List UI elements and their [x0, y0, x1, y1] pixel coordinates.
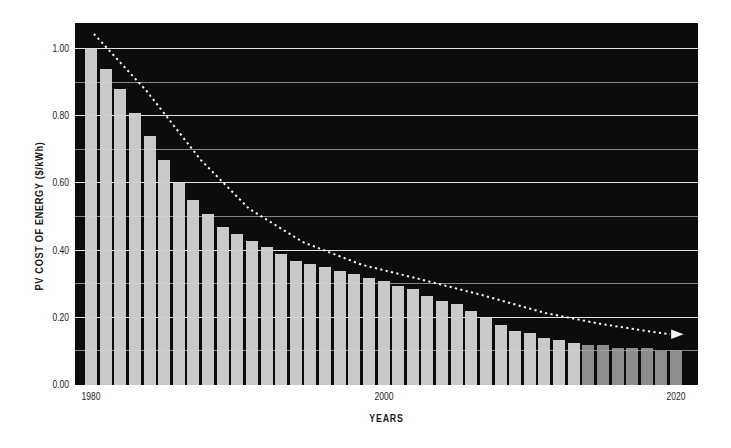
x-tick-label-2000: 2000	[365, 391, 402, 403]
y-tick-label-0.80: 0.80	[13, 110, 69, 122]
x-tick-label-2020: 2020	[657, 391, 694, 403]
x-tick-label-1980: 1980	[72, 391, 109, 403]
y-axis-title-text: PV COST OF ENERGY ($/kWh)	[34, 142, 45, 291]
y-tick-label-1.00: 1.00	[13, 43, 69, 55]
trend-line	[75, 23, 698, 385]
pv-cost-of-energy-chart: 1.000.800.600.400.200.00 198020002020 PV…	[0, 0, 731, 448]
arrowhead-icon	[671, 329, 684, 339]
y-tick-label-0.20: 0.20	[13, 312, 69, 324]
y-tick-label-0.00: 0.00	[13, 379, 69, 391]
x-axis-title: YEARS	[112, 413, 660, 424]
trend-dotted-path	[94, 34, 670, 334]
plot-area	[75, 23, 698, 385]
